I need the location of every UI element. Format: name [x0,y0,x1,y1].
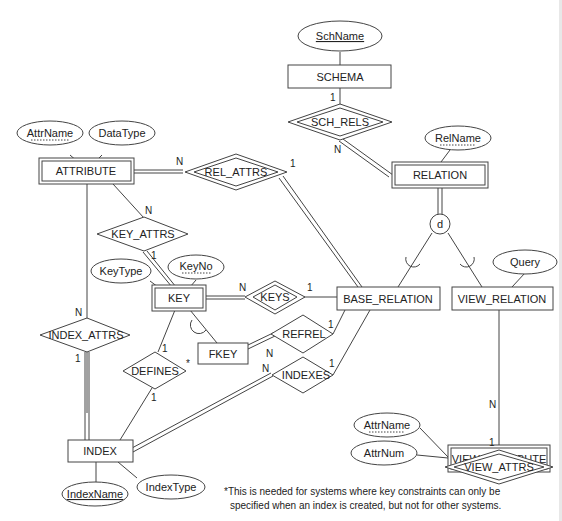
specialization-disjoint: d [430,214,450,234]
relationship-label: REFREL [282,328,325,340]
svg-text:DataType: DataType [98,127,145,139]
card-sch-rels-1: 1 [330,92,336,103]
relationship-label: INDEX_ATTRS [49,329,124,341]
relationship-label: INDEXES [282,369,330,381]
svg-text:AttrName: AttrName [27,127,73,139]
footnote-line-2: specified when an index is created, but … [230,500,501,511]
relationship-sch-rels[interactable]: SCH_RELS [288,104,392,140]
relationship-indexes[interactable]: INDEXES [272,357,333,393]
card-rel-attrs-1: 1 [290,158,296,169]
card-indexes-1: 1 [329,358,335,369]
entity-label: KEY [168,292,191,304]
entity-attribute[interactable]: ATTRIBUTE [39,158,134,184]
svg-text:KeyType: KeyType [100,265,143,277]
entity-index[interactable]: INDEX [68,440,133,462]
card-key-attrs-n: N [145,205,152,216]
defines-footnote-marker: * [186,358,190,369]
relationship-index-attrs[interactable]: INDEX_ATTRS [40,318,130,352]
entity-fkey[interactable]: FKEY [198,343,248,364]
svg-text:RelName: RelName [435,132,481,144]
entity-label: BASE_RELATION [343,293,433,305]
entity-label: ATTRIBUTE [56,165,116,177]
card-view-attrs-1: 1 [489,437,495,448]
card-defines-1-bottom: 1 [151,392,157,403]
relationship-key-attrs[interactable]: KEY_ATTRS [97,217,188,251]
entity-label: SCHEMA [316,71,364,83]
entity-label: RELATION [413,169,467,181]
relationship-refrel[interactable]: REFREL [271,315,333,353]
relationship-label: SCH_RELS [311,116,369,128]
card-refrel-n: N [266,348,273,359]
attribute-schname[interactable]: SchName [298,21,382,51]
svg-text:IndexName: IndexName [67,488,123,500]
card-indexes-n: N [262,363,269,374]
relationship-label: KEYS [260,291,289,303]
attribute-query[interactable]: Query [493,250,557,274]
entity-label: VIEW_RELATION [458,293,546,305]
attribute-datatype[interactable]: DataType [89,121,155,145]
svg-text:SchName: SchName [316,30,364,42]
relationship-label: VIEW_ATTRS [464,461,533,473]
attribute-keytype[interactable]: KeyType [91,259,151,283]
entity-view-relation[interactable]: VIEW_RELATION [452,287,553,310]
card-view-attrs-n: N [489,399,496,410]
entity-base-relation[interactable]: BASE_RELATION [337,287,440,310]
card-keys-1: 1 [307,282,313,293]
card-defines-1-top: 1 [162,343,168,354]
svg-text:IndexType: IndexType [146,481,197,493]
attribute-relname[interactable]: RelName [425,126,491,150]
card-keys-n: N [239,282,246,293]
card-index-attrs-1: 1 [75,353,81,364]
svg-text:AttrNum: AttrNum [364,447,404,459]
entity-relation[interactable]: RELATION [392,162,488,188]
relationship-label: DEFINES [131,365,179,377]
card-key-attrs-1: 1 [151,250,157,261]
entity-label: INDEX [83,445,117,457]
specialization-symbol: d [437,218,443,230]
er-diagram: SCHEMA RELATION ATTRIBUTE KEY BASE_RELAT… [0,0,562,521]
attribute-indexname[interactable]: IndexName [62,482,128,506]
card-index-attrs-n: N [75,307,82,318]
attribute-indextype[interactable]: IndexType [137,475,205,499]
relationship-label: KEY_ATTRS [111,228,174,240]
attribute-keyno[interactable]: KeyNo [168,255,224,279]
svg-text:AttrName: AttrName [364,419,410,431]
footnote-line-1: *This is needed for systems where key co… [224,486,501,497]
relationship-label: REL_ATTRS [205,166,268,178]
relationship-rel-attrs[interactable]: REL_ATTRS [185,154,287,190]
attribute-view-attrname[interactable]: AttrName [354,413,420,437]
entity-key[interactable]: KEY [152,285,206,311]
entity-label: FKEY [209,348,238,360]
attribute-attrname[interactable]: AttrName [17,121,83,145]
entity-schema[interactable]: SCHEMA [288,65,391,88]
relationship-defines[interactable]: DEFINES [123,352,186,389]
svg-text:Query: Query [510,256,540,268]
card-sch-rels-n: N [334,144,341,155]
attribute-view-attrnum[interactable]: AttrNum [351,441,417,465]
svg-text:KeyNo: KeyNo [179,260,212,272]
card-refrel-1: 1 [328,319,334,330]
card-rel-attrs-n: N [176,156,183,167]
relationship-keys[interactable]: KEYS [245,281,305,314]
